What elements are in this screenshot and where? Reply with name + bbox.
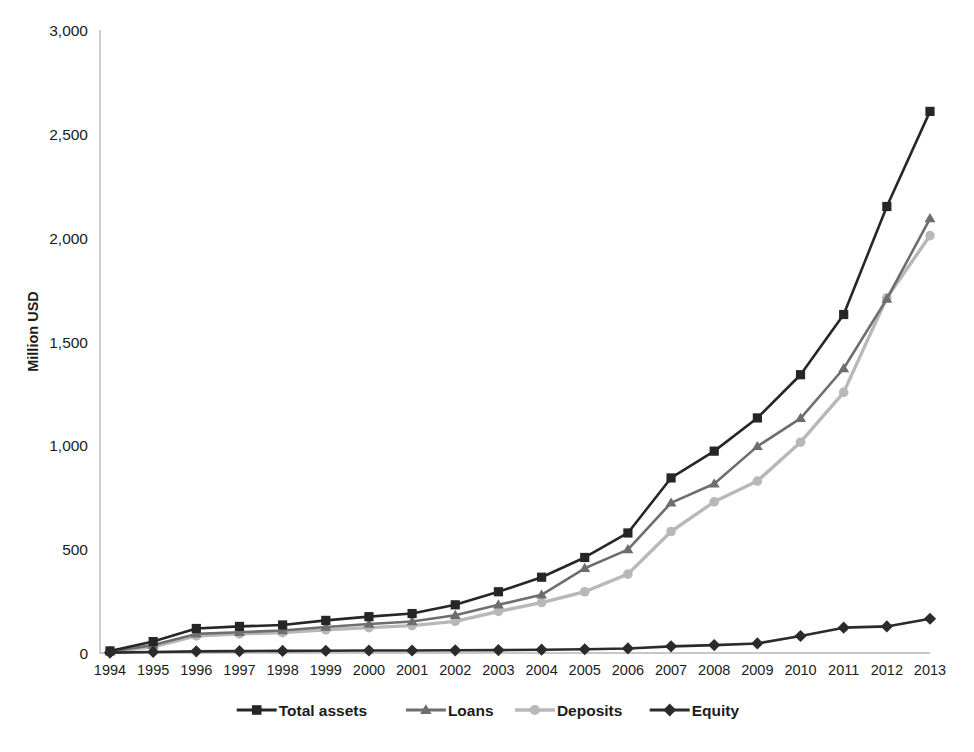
x-tick-label: 1996 [180, 662, 212, 678]
y-axis-tick-labels: 05001,0001,5002,0002,5003,000 [49, 22, 88, 662]
data-point-marker [881, 620, 893, 632]
data-point-marker [623, 528, 632, 537]
x-tick-label: 2001 [396, 662, 428, 678]
x-tick-label: 1997 [223, 662, 255, 678]
x-tick-label: 2009 [741, 662, 773, 678]
data-point-marker [233, 645, 245, 657]
x-tick-label: 2003 [482, 662, 514, 678]
data-point-marker [925, 231, 935, 241]
data-point-marker [753, 413, 762, 422]
data-point-marker [796, 437, 806, 447]
legend-label: Loans [448, 702, 494, 719]
series-deposits [105, 231, 935, 657]
data-point-marker [364, 612, 373, 621]
data-point-marker [839, 310, 848, 319]
data-point-marker [190, 645, 202, 657]
y-tick-label: 3,000 [49, 22, 88, 39]
y-axis-title: Million USD [25, 291, 41, 372]
data-point-marker [796, 370, 805, 379]
data-point-marker [580, 553, 589, 562]
data-point-marker [149, 637, 158, 646]
data-point-marker [623, 569, 633, 579]
data-point-marker [580, 587, 590, 597]
legend-item-equity[interactable]: Equity [650, 702, 740, 719]
x-tick-label: 1995 [137, 662, 169, 678]
data-point-marker [665, 640, 677, 652]
x-tick-label: 1999 [310, 662, 342, 678]
y-tick-label: 2,500 [49, 126, 88, 143]
data-point-marker [408, 609, 417, 618]
data-point-marker [709, 497, 719, 507]
data-point-marker [666, 527, 676, 537]
chart-figure: 05001,0001,5002,0002,5003,000 Million US… [0, 0, 974, 752]
x-tick-label: 2005 [569, 662, 601, 678]
x-tick-label: 2000 [353, 662, 385, 678]
data-point-marker [252, 705, 262, 715]
data-point-marker [449, 644, 461, 656]
data-point-marker [277, 645, 289, 657]
data-point-marker [839, 388, 849, 398]
x-tick-label: 1994 [94, 662, 126, 678]
data-point-marker [794, 630, 806, 642]
legend-label: Total assets [279, 702, 367, 719]
x-tick-label: 2008 [698, 662, 730, 678]
data-point-marker [537, 573, 546, 582]
x-tick-label: 2007 [655, 662, 687, 678]
data-point-marker [663, 704, 676, 717]
data-point-marker [882, 202, 891, 211]
line-chart-plot: 05001,0001,5002,0002,5003,000 Million US… [0, 0, 974, 752]
data-point-marker [321, 616, 330, 625]
data-point-marker [235, 622, 244, 631]
y-axis-title-text: Million USD [25, 291, 41, 372]
x-axis-tick-labels: 1994199519961997199819992000200120022003… [94, 662, 946, 678]
data-point-marker [752, 441, 763, 450]
axis-lines [100, 30, 930, 653]
y-tick-label: 500 [62, 541, 88, 558]
x-tick-label: 2013 [914, 662, 946, 678]
legend-item-total-assets[interactable]: Total assets [237, 702, 367, 719]
legend-item-deposits[interactable]: Deposits [515, 702, 622, 719]
data-point-marker [710, 447, 719, 456]
data-point-marker [838, 622, 850, 634]
data-point-marker [494, 587, 503, 596]
data-point-marker [924, 613, 936, 625]
x-tick-label: 2010 [784, 662, 816, 678]
legend-label: Equity [692, 702, 740, 719]
x-tick-label: 2012 [871, 662, 903, 678]
legend-label: Deposits [557, 702, 622, 719]
y-tick-label: 0 [79, 645, 88, 662]
x-tick-label: 2002 [439, 662, 471, 678]
data-point-marker [363, 644, 375, 656]
series-line [110, 236, 930, 652]
data-point-marker [192, 624, 201, 633]
series-layer [104, 107, 936, 659]
data-point-marker [278, 620, 287, 629]
data-point-marker [530, 705, 540, 715]
series-loans [105, 213, 936, 655]
x-tick-label: 2011 [828, 662, 859, 678]
data-point-marker [925, 107, 934, 116]
data-point-marker [666, 473, 675, 482]
data-point-marker [535, 644, 547, 656]
x-tick-label: 1998 [266, 662, 298, 678]
data-point-marker [451, 600, 460, 609]
y-tick-label: 1,500 [49, 334, 88, 351]
series-line [110, 111, 930, 651]
data-point-marker [753, 476, 763, 486]
data-point-marker [708, 639, 720, 651]
data-point-marker [492, 644, 504, 656]
data-point-marker [925, 213, 936, 222]
data-point-marker [406, 644, 418, 656]
x-tick-label: 2004 [525, 662, 557, 678]
y-tick-label: 2,000 [49, 230, 88, 247]
y-tick-label: 1,000 [49, 437, 88, 454]
x-tick-label: 2006 [612, 662, 644, 678]
chart-legend: Total assetsLoansDepositsEquity [237, 702, 740, 719]
series-total-assets [105, 107, 934, 656]
data-point-marker [751, 637, 763, 649]
data-point-marker [320, 645, 332, 657]
legend-item-loans[interactable]: Loans [406, 702, 494, 719]
data-point-marker [537, 598, 547, 608]
